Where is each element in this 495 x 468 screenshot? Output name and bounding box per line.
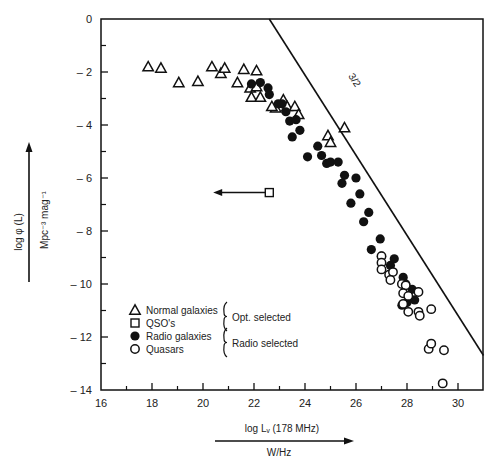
filled-circle-marker-icon <box>337 179 346 188</box>
filled-circle-marker-icon <box>291 115 300 124</box>
filled-circle-marker-icon <box>295 126 304 135</box>
open-triangle-marker-icon <box>232 77 242 86</box>
open-circle-marker-icon <box>414 288 422 296</box>
open-square-marker-icon <box>265 189 273 197</box>
arrow-left-icon <box>213 189 222 196</box>
legend-triangle-icon <box>130 305 140 314</box>
open-triangle-marker-icon <box>255 92 265 101</box>
x-tick-label: 22 <box>248 397 260 409</box>
y-axis-arrow-icon <box>26 142 33 152</box>
y-tick-label: – 14 <box>71 384 92 396</box>
legend-filled-circle-icon <box>130 331 139 340</box>
legend-label: Quasars <box>146 344 184 355</box>
open-circle-marker-icon <box>404 308 412 316</box>
filled-circle-marker-icon <box>340 171 349 180</box>
filled-circle-marker-icon <box>277 99 286 108</box>
filled-circle-marker-icon <box>303 152 312 161</box>
open-triangle-marker-icon <box>174 77 184 86</box>
y-axis-title-text: log φ (L) <box>13 213 24 251</box>
x-axis-unit-text: W/Hz <box>267 447 291 458</box>
filled-circle-marker-icon <box>334 158 343 167</box>
legend-brace <box>224 302 227 331</box>
open-circle-marker-icon <box>427 305 435 313</box>
slope-line <box>269 19 483 356</box>
qso-upper-limit <box>213 189 273 197</box>
legend-group-label: Radio selected <box>232 338 298 349</box>
legend-open-circle-icon <box>131 345 139 353</box>
x-tick-label: 18 <box>146 397 158 409</box>
luminosity-function-chart: 16182022242628300– 2– 4– 6– 8– 10– 12– 1… <box>0 0 495 468</box>
open-triangle-marker-icon <box>143 62 153 71</box>
legend-group-label: Opt. selected <box>232 312 291 323</box>
legend-square-icon <box>131 319 139 327</box>
x-tick-label: 24 <box>299 397 311 409</box>
legend-label: QSO's <box>146 318 175 329</box>
filled-circle-marker-icon <box>265 90 274 99</box>
open-circle-marker-icon <box>399 300 407 308</box>
open-triangle-marker-icon <box>193 76 203 85</box>
open-circle-marker-icon <box>440 346 448 354</box>
slope-label: 3/2 <box>346 71 363 89</box>
y-tick-label: – 2 <box>77 66 92 78</box>
filled-circle-marker-icon <box>313 142 322 151</box>
x-axis-title: log Lᵥ (178 MHz) W/Hz <box>215 423 354 458</box>
filled-circle-marker-icon <box>364 208 373 217</box>
legend-label: Normal galaxies <box>146 305 218 316</box>
series-quasars <box>377 252 448 388</box>
open-circle-marker-icon <box>404 292 412 300</box>
filled-circle-marker-icon <box>247 79 256 88</box>
x-tick-label: 20 <box>197 397 209 409</box>
filled-circle-marker-icon <box>359 217 368 226</box>
open-circle-marker-icon <box>377 265 385 273</box>
filled-circle-marker-icon <box>367 245 376 254</box>
series-normal-galaxies <box>143 62 350 147</box>
y-tick-label: – 10 <box>71 278 92 290</box>
x-tick-label: 16 <box>95 397 107 409</box>
y-tick-label: – 12 <box>71 331 92 343</box>
open-circle-marker-icon <box>386 276 394 284</box>
legend: Normal galaxiesQSO'sRadio galaxiesQuasar… <box>130 302 298 357</box>
open-circle-marker-icon <box>402 281 410 289</box>
open-triangle-marker-icon <box>207 62 217 71</box>
open-triangle-marker-icon <box>239 64 249 73</box>
open-circle-marker-icon <box>427 339 435 347</box>
x-tick-label: 30 <box>452 397 464 409</box>
open-triangle-marker-icon <box>246 92 256 101</box>
open-circle-marker-icon <box>416 312 424 320</box>
legend-label: Radio galaxies <box>146 331 212 342</box>
y-tick-label: 0 <box>86 13 92 25</box>
slope-reference-line <box>269 19 483 356</box>
filled-circle-marker-icon <box>351 173 360 182</box>
filled-circle-marker-icon <box>355 189 364 198</box>
y-tick-label: – 8 <box>77 225 92 237</box>
x-tick-label: 28 <box>401 397 413 409</box>
legend-brace <box>224 328 227 357</box>
open-circle-marker-icon <box>389 268 397 276</box>
x-axis-arrow-icon <box>344 438 354 445</box>
filled-circle-marker-icon <box>376 234 385 243</box>
filled-circle-marker-icon <box>288 132 297 141</box>
open-triangle-marker-icon <box>251 65 261 74</box>
y-axis-title: log φ (L) Mpc⁻³ mag⁻¹ <box>13 142 50 282</box>
filled-circle-marker-icon <box>317 151 326 160</box>
filled-circle-marker-icon <box>256 78 265 87</box>
open-triangle-marker-icon <box>339 122 349 131</box>
filled-circle-marker-icon <box>346 199 355 208</box>
open-circle-marker-icon <box>439 379 447 387</box>
axis-tick-labels: 16182022242628300– 2– 4– 6– 8– 10– 12– 1… <box>71 13 465 409</box>
x-tick-label: 26 <box>350 397 362 409</box>
y-tick-label: – 4 <box>77 119 92 131</box>
filled-circle-marker-icon <box>281 107 290 116</box>
y-axis-unit-text: Mpc⁻³ mag⁻¹ <box>39 190 50 248</box>
x-axis-title-text: log Lᵥ (178 MHz) <box>245 423 319 434</box>
y-tick-label: – 6 <box>77 172 92 184</box>
open-triangle-marker-icon <box>156 63 166 72</box>
